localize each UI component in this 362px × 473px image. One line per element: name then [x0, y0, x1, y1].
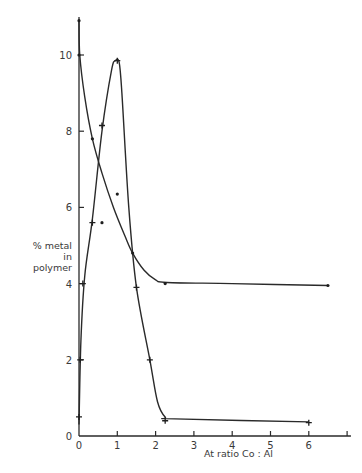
- y-tick-label: 4: [66, 279, 72, 290]
- plus-marker: [76, 414, 82, 420]
- dot-marker: [326, 284, 329, 287]
- y-tick-label: 2: [66, 355, 72, 366]
- dot-marker: [131, 252, 134, 255]
- ticks: 01234560246810: [59, 50, 347, 451]
- x-tick-label: 6: [306, 440, 312, 451]
- y-tick-label: 8: [66, 126, 72, 137]
- markers: [76, 19, 330, 426]
- dot-marker: [100, 221, 103, 224]
- dot-marker: [91, 137, 94, 140]
- x-tick-label: 3: [191, 440, 197, 451]
- y-axis-label-line1: % metal: [26, 240, 72, 251]
- x-tick-label: 2: [152, 440, 158, 451]
- y-axis-label: % metal in polymer: [26, 240, 72, 273]
- plus-marker: [99, 122, 105, 128]
- x-axis-label: At ratio Co : Al: [204, 448, 273, 459]
- dot-marker: [164, 282, 167, 285]
- y-tick-label: 6: [66, 202, 72, 213]
- y-tick-label: 0: [66, 431, 72, 442]
- dot-marker: [116, 192, 119, 195]
- x-tick-label: 1: [114, 440, 120, 451]
- series-peaked-curve: [79, 59, 309, 424]
- x-tick-label: 0: [76, 440, 82, 451]
- axes: [79, 17, 351, 436]
- plus-marker: [147, 357, 153, 363]
- y-axis-label-line2: in polymer: [26, 251, 72, 273]
- chart: 01234560246810: [0, 0, 362, 473]
- series: [79, 21, 328, 425]
- plus-marker: [89, 220, 95, 226]
- dot-marker: [77, 19, 80, 22]
- plus-marker: [133, 284, 139, 290]
- plus-marker: [77, 357, 83, 363]
- y-tick-label: 10: [59, 50, 72, 61]
- plus-marker: [306, 420, 312, 426]
- dot-marker: [77, 53, 80, 56]
